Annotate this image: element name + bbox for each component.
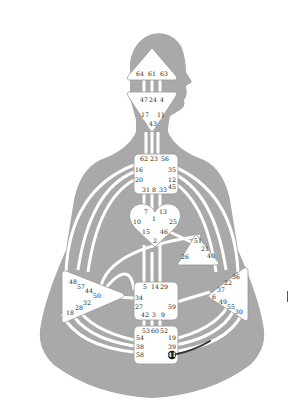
gate-59: 59 [168,303,176,310]
gate-55: 55 [227,303,235,310]
gate-63: 63 [160,70,168,77]
gate-8: 8 [152,186,156,193]
gate-64: 64 [136,70,144,77]
gate-58: 58 [136,351,144,358]
gate-31: 31 [142,186,150,193]
gate-33: 33 [159,186,167,193]
gate-62: 62 [140,155,148,162]
gate-54: 54 [136,334,144,341]
bodygraph: 64 61 63 47 24 4 17 11 43 62 23 56 16 35… [0,0,304,413]
gate-46: 46 [160,228,168,235]
gate-35: 35 [168,166,176,173]
gate-36: 36 [232,273,240,280]
gate-18: 18 [66,309,74,316]
gate-45: 45 [168,183,176,190]
gate-56: 56 [161,155,169,162]
gate-13: 13 [159,208,167,215]
gate-10: 10 [133,218,141,225]
gate-40: 40 [207,252,215,259]
gate-29: 29 [160,283,168,290]
gate-27: 27 [135,303,143,310]
throat-center[interactable]: 62 23 56 16 35 20 12 31 8 33 45 [134,154,178,194]
gate-53: 53 [142,327,150,334]
gate-1: 1 [152,215,156,222]
gate-48: 48 [69,278,77,285]
gate-60: 60 [151,327,159,334]
gate-23: 23 [150,155,158,162]
gate-32: 32 [83,299,91,306]
gate-30: 30 [235,308,243,315]
gate-12: 12 [168,176,176,183]
gate-19: 19 [168,334,176,341]
gate-39: 39 [168,343,176,350]
gate-14: 14 [151,283,159,290]
edge-tick [287,291,288,302]
gate-7: 7 [144,208,148,215]
gate-47: 47 [140,96,148,103]
gate-52: 52 [160,327,168,334]
gate-61: 61 [148,70,156,77]
gate-24: 24 [149,96,157,103]
gate-41: 41 [168,351,177,358]
gate-37: 37 [217,286,225,293]
gate-9: 9 [161,311,165,318]
gate-17: 17 [141,111,149,118]
gate-16: 16 [135,166,143,173]
gate-5: 5 [143,283,147,290]
gate-20: 20 [135,176,143,183]
gate-2: 2 [153,237,157,244]
gate-26: 26 [181,253,189,260]
gate-49: 49 [219,298,227,305]
gate-42: 42 [141,311,149,318]
gate-21: 21 [201,245,209,252]
gate-50: 50 [93,292,101,299]
sacral-center[interactable]: 5 14 29 34 27 59 42 3 9 [134,282,178,320]
gate-4: 4 [160,96,164,103]
gate-43: 43 [149,120,157,127]
gate-44: 44 [85,287,93,294]
gate-57: 57 [77,283,85,290]
gate-25: 25 [169,218,177,225]
gate-15: 15 [142,228,150,235]
gate-3: 3 [152,311,156,318]
root-center[interactable]: 53 60 52 54 19 38 39 58 41 [134,326,178,364]
gate-22: 22 [224,279,232,286]
gate-38: 38 [136,343,144,350]
gate-34: 34 [135,294,143,301]
gate-51: 51 [194,237,202,244]
gate-11: 11 [157,111,165,118]
gate-28: 28 [75,304,83,311]
gate-6: 6 [212,293,216,300]
